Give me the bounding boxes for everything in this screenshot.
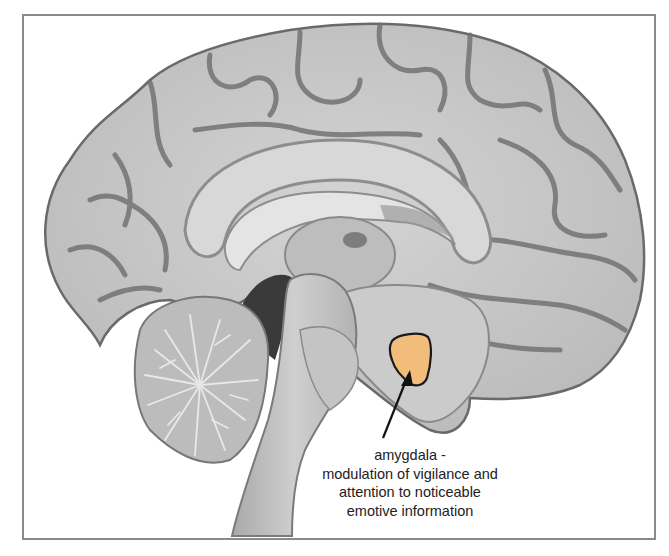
label-line-2: modulation of vigilance and — [290, 465, 530, 484]
label-line-4: emotive information — [290, 502, 530, 521]
label-line-3: attention to noticeable — [290, 483, 530, 502]
label-line-1: amygdala - — [290, 446, 530, 465]
amygdala-label: amygdala - modulation of vigilance and a… — [290, 446, 530, 520]
cerebellum — [135, 297, 268, 463]
